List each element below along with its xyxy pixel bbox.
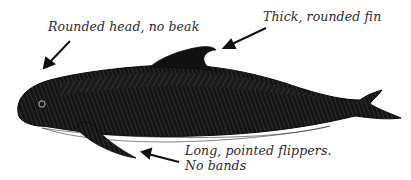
arrow-flipper-annotation xyxy=(142,149,179,162)
flipper-annotation-label: Long, pointed flippers. No bands xyxy=(185,143,331,173)
flipper-annotation-line1: Long, pointed flippers. xyxy=(185,143,331,158)
arrow-head-annotation xyxy=(44,41,70,68)
head-annotation-label: Rounded head, no beak xyxy=(48,19,199,34)
flipper-annotation-line2: No bands xyxy=(185,158,331,173)
fin-annotation-label: Thick, rounded fin xyxy=(263,9,381,24)
dorsal-fin xyxy=(150,47,216,70)
arrow-fin-annotation xyxy=(224,28,266,48)
